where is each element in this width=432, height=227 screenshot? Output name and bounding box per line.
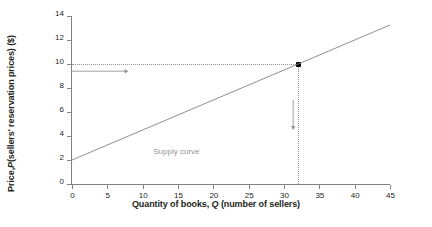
vertical-arrow [72, 16, 390, 184]
x-tick-label: 10 [139, 191, 148, 200]
x-tick-label: 5 [106, 191, 110, 200]
plot-area: 02468101214 051015202530354045 Supply cu… [72, 16, 390, 184]
y-tick-label: 12 [55, 33, 64, 42]
y-axis-title: Price, P (sellers' reservation prices) (… [0, 0, 22, 227]
x-tick: 5 [107, 185, 108, 189]
x-axis-line [71, 184, 390, 185]
x-tick-label: 40 [351, 191, 360, 200]
x-tick-label: 45 [386, 191, 395, 200]
x-tick-label: 0 [70, 191, 74, 200]
y-tick-label: 14 [55, 9, 64, 18]
y-tick: 14 [67, 16, 71, 17]
x-axis-title-post: (number of sellers) [218, 199, 300, 209]
x-tick: 25 [249, 185, 250, 189]
x-tick: 10 [143, 185, 144, 189]
y-tick-label: 4 [60, 129, 64, 138]
x-axis-title-pre: Quantity of books, [132, 199, 212, 209]
x-tick-label: 30 [280, 191, 289, 200]
x-axis-title: Quantity of books, Q (number of sellers) [0, 199, 432, 209]
x-tick-label: 25 [245, 191, 254, 200]
x-tick-label: 15 [174, 191, 183, 200]
y-tick: 8 [67, 88, 71, 89]
x-tick: 20 [213, 185, 214, 189]
x-tick: 40 [355, 185, 356, 189]
y-tick-label: 0 [60, 177, 64, 186]
supply-curve-chart: Price, P (sellers' reservation prices) (… [0, 0, 432, 227]
y-tick-label: 6 [60, 105, 64, 114]
x-tick: 15 [178, 185, 179, 189]
y-tick-label: 8 [60, 81, 64, 90]
x-tick: 35 [319, 185, 320, 189]
x-tick: 30 [284, 185, 285, 189]
x-tick-label: 20 [209, 191, 218, 200]
x-tick: 0 [72, 185, 73, 189]
y-tick: 6 [67, 112, 71, 113]
y-tick-label: 2 [60, 153, 64, 162]
x-tick-label: 35 [315, 191, 324, 200]
y-tick: 4 [67, 136, 71, 137]
x-tick: 45 [390, 185, 391, 189]
y-tick-label: 10 [55, 57, 64, 66]
y-axis-title-variable: P [6, 162, 16, 168]
y-tick: 0 [67, 184, 71, 185]
y-tick: 12 [67, 40, 71, 41]
y-tick: 2 [67, 160, 71, 161]
y-tick: 10 [67, 64, 71, 65]
y-axis-title-post: (sellers' reservation prices) ($) [6, 35, 16, 162]
y-axis-title-pre: Price, [6, 168, 16, 192]
